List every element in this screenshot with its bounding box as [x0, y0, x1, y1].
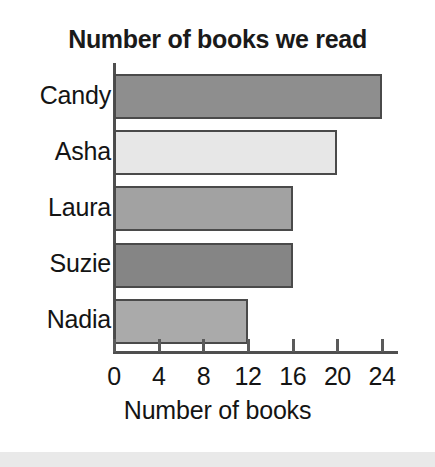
category-label-suzie: Suzie [0, 249, 111, 278]
category-label-asha: Asha [0, 137, 111, 166]
category-label-nadia: Nadia [0, 305, 111, 334]
x-tick-16 [292, 339, 295, 352]
x-tick-4 [158, 339, 161, 352]
category-label-candy: Candy [0, 81, 111, 110]
x-axis-line [113, 351, 398, 354]
x-axis-title: Number of books [0, 396, 435, 425]
bar-nadia [114, 299, 248, 344]
x-tick-24 [381, 339, 384, 352]
x-tick-8 [202, 339, 205, 352]
bottom-strip [0, 452, 435, 467]
bar-candy [114, 74, 382, 119]
x-tick-0 [113, 339, 116, 352]
x-tick-label-24: 24 [352, 362, 412, 391]
bar-laura [114, 186, 293, 231]
x-tick-20 [336, 339, 339, 352]
bar-chart: Number of books we read Candy Asha Laura… [0, 0, 435, 467]
category-label-laura: Laura [0, 193, 111, 222]
x-tick-12 [247, 339, 250, 352]
plot-area: Candy Asha Laura Suzie Nadia 04812162024… [0, 0, 435, 467]
bar-suzie [114, 243, 293, 288]
bar-asha [114, 130, 337, 175]
